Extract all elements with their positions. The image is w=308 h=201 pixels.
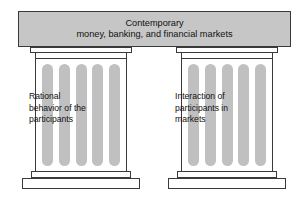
column-right-label-line-2: participants in bbox=[175, 103, 259, 115]
column-right-label-line-1: Interaction of bbox=[175, 91, 259, 103]
column-left-base-upper bbox=[31, 171, 131, 178]
column-right: Interaction of participants in markets bbox=[168, 47, 286, 191]
column-left-base-lower bbox=[22, 178, 140, 189]
column-left-label-line-1: Rational bbox=[29, 91, 113, 103]
column-right-base-upper bbox=[177, 171, 277, 178]
column-right-base-lower bbox=[168, 178, 286, 189]
entablature: Contemporary money, banking, and financi… bbox=[18, 11, 291, 47]
column-left-label-line-3: participants bbox=[29, 114, 113, 126]
entablature-title-line-2: money, banking, and financial markets bbox=[76, 29, 232, 40]
column-right-label: Interaction of participants in markets bbox=[175, 91, 259, 126]
column-left-label: Rational behavior of the participants bbox=[29, 91, 113, 126]
column-right-label-line-3: markets bbox=[175, 114, 259, 126]
column-left: Rational behavior of the participants bbox=[22, 47, 140, 191]
entablature-title-line-1: Contemporary bbox=[125, 18, 183, 29]
column-left-label-line-2: behavior of the bbox=[29, 103, 113, 115]
column-diagram: Contemporary money, banking, and financi… bbox=[0, 0, 308, 201]
